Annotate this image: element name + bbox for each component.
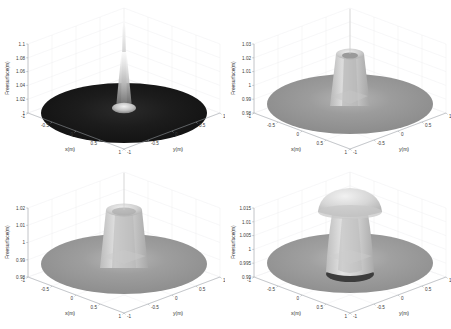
y-tick-label: -0.5 <box>151 305 159 310</box>
y-tick-label: 0 <box>401 132 404 137</box>
z-tick-label: 0.995 <box>240 261 252 266</box>
z-tick-label: 1.015 <box>240 206 252 211</box>
surface-plot-2: 0.98 0.99 1 1.01 1.02 1.03 Freesurface(m… <box>226 0 451 164</box>
z-tick-label: 1.02 <box>16 206 25 211</box>
z-tick-label: 1.03 <box>242 42 251 47</box>
z-tick-label: 0.99 <box>16 258 25 263</box>
z-axis-title: Freesurface(m) <box>5 61 10 95</box>
x-tick-label: 1 <box>118 314 121 319</box>
y-tick-label: 1 <box>223 278 225 283</box>
y-tick-label: 0.5 <box>199 123 206 128</box>
x-axis-title: x(m) <box>291 146 301 152</box>
y-axis-title: y(m) <box>173 146 183 152</box>
z-axis: 0.98 0.99 1 1.01 1.02 1.03 Freesurface(m… <box>231 42 254 116</box>
y-tick-label: -0.5 <box>151 141 159 146</box>
z-axis: 0.98 0.99 1 1.01 1.02 Freesurface(m) <box>5 206 28 280</box>
z-tick-label: 1.1 <box>19 42 26 47</box>
x-tick-label: 1 <box>344 150 347 155</box>
z-tick-label: 1.08 <box>16 56 25 61</box>
x-tick-label: -0.5 <box>41 287 49 292</box>
subplot-panel-3: 0.98 0.99 1 1.01 1.02 Freesurface(m) -1 … <box>0 164 225 328</box>
y-tick-label: 0 <box>401 296 404 301</box>
y-tick-label: 0 <box>175 132 178 137</box>
x-tick-label: 0.5 <box>91 305 98 310</box>
y-tick-label: 1 <box>223 114 225 119</box>
y-tick-label: 0.5 <box>425 287 432 292</box>
x-tick-label: -1 <box>21 278 26 283</box>
x-axis-title: x(m) <box>65 146 75 152</box>
y-axis-title: y(m) <box>399 146 409 152</box>
x-axis-title: x(m) <box>291 310 301 316</box>
y-tick-label: 0.5 <box>425 123 432 128</box>
z-axis-title: Freesurface(m) <box>231 61 236 95</box>
cap-underside <box>318 205 382 219</box>
y-tick-label: -1 <box>353 150 358 155</box>
surface-plot-1: 1 1.02 1.04 1.06 1.08 1.1 Freesurface(m)… <box>0 0 225 164</box>
x-tick-label: 0 <box>296 132 299 137</box>
x-tick-label: -1 <box>21 114 26 119</box>
y-tick-label: -1 <box>127 314 132 319</box>
z-tick-label: 1.02 <box>242 56 251 61</box>
x-tick-label: 0 <box>296 296 299 301</box>
z-tick-label: 1 <box>248 83 251 88</box>
subplot-panel-4: 0.99 0.995 1 1.005 1.01 1.015 Freesurfac… <box>226 164 451 328</box>
y-tick-label: -0.5 <box>377 305 385 310</box>
z-tick-label: 1.01 <box>16 223 25 228</box>
z-tick-label: 0.99 <box>242 97 251 102</box>
y-axis-title: y(m) <box>173 310 183 316</box>
surface-plot-3: 0.98 0.99 1 1.01 1.02 Freesurface(m) -1 … <box>0 164 225 328</box>
y-tick-label: -1 <box>353 314 358 319</box>
z-axis: 0.99 0.995 1 1.005 1.01 1.015 Freesurfac… <box>231 206 254 280</box>
y-tick-label: -1 <box>127 150 132 155</box>
y-tick-label: 0 <box>175 296 178 301</box>
x-tick-label: 1 <box>344 314 347 319</box>
z-tick-label: 1.01 <box>242 69 251 74</box>
y-tick-label: -0.5 <box>377 141 385 146</box>
x-tick-label: 0 <box>70 132 73 137</box>
subplot-panel-2: 0.98 0.99 1 1.01 1.02 1.03 Freesurface(m… <box>226 0 451 164</box>
z-tick-label: 1 <box>248 247 251 252</box>
z-tick-label: 1.005 <box>240 233 252 238</box>
y-tick-label: 0.5 <box>199 287 206 292</box>
surface-plot-4: 0.99 0.995 1 1.005 1.01 1.015 Freesurfac… <box>226 164 451 328</box>
z-axis: 1 1.02 1.04 1.06 1.08 1.1 Freesurface(m) <box>5 42 28 116</box>
x-tick-label: -0.5 <box>41 123 49 128</box>
x-tick-label: 0.5 <box>91 141 98 146</box>
x-tick-label: -0.5 <box>267 287 275 292</box>
z-axis-title: Freesurface(m) <box>5 225 10 259</box>
jet-base-crown <box>112 103 136 113</box>
x-tick-label: -1 <box>247 278 252 283</box>
z-tick-label: 1 <box>22 240 25 245</box>
z-tick-label: 1.04 <box>16 83 25 88</box>
column-inner-shade <box>338 218 362 273</box>
x-tick-label: 1 <box>118 150 121 155</box>
x-axis-title: x(m) <box>65 310 75 316</box>
z-tick-label: 1.02 <box>16 97 25 102</box>
z-axis-title: Freesurface(m) <box>231 225 236 259</box>
y-axis-title: y(m) <box>399 310 409 316</box>
figure-canvas: 1 1.02 1.04 1.06 1.08 1.1 Freesurface(m)… <box>0 0 451 329</box>
x-tick-label: 0 <box>70 296 73 301</box>
z-tick-label: 1.06 <box>16 69 25 74</box>
x-tick-label: 0.5 <box>317 305 324 310</box>
x-tick-label: -0.5 <box>267 123 275 128</box>
subplot-panel-1: 1 1.02 1.04 1.06 1.08 1.1 Freesurface(m)… <box>0 0 225 164</box>
x-tick-label: -1 <box>247 114 252 119</box>
z-tick-label: 1.01 <box>242 220 251 225</box>
x-tick-label: 0.5 <box>317 141 324 146</box>
